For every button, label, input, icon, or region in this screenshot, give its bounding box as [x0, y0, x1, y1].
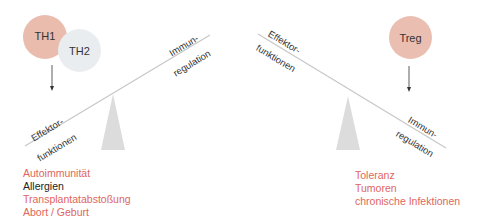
- right-arrow-head: [407, 87, 411, 92]
- outcome-chronic-infections: chronische Infektionen: [355, 195, 460, 208]
- outcome-tumors: Tumoren: [355, 182, 460, 195]
- right-fulcrum: [336, 96, 360, 150]
- right-outcomes-list: Toleranz Tumoren chronische Infektionen: [355, 169, 460, 208]
- th2-label: TH2: [69, 45, 90, 57]
- outcome-abortion-birth: Abort / Geburt: [23, 206, 131, 219]
- outcome-allergies: Allergien: [23, 180, 131, 193]
- left-arrow-head: [50, 86, 54, 91]
- th2-cell: TH2: [58, 29, 101, 72]
- outcome-tolerance: Toleranz: [355, 169, 460, 182]
- outcome-autoimmunity: Autoimmunität: [23, 167, 131, 180]
- outcome-transplant-rejection: Transplantatabstoßung: [23, 193, 131, 206]
- treg-cell: Treg: [389, 16, 432, 59]
- left-outcomes-list: Autoimmunität Allergien Transplantatabst…: [23, 167, 131, 219]
- treg-label: Treg: [399, 32, 421, 44]
- left-fulcrum: [101, 94, 125, 150]
- th1-label: TH1: [35, 30, 56, 42]
